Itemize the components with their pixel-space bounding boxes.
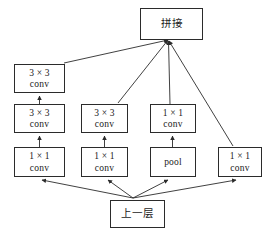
node-concat-label: 拼接	[161, 18, 183, 29]
node-branch2-conv3x3[interactable]: 3 × 3 conv	[81, 104, 128, 133]
node-branch3-conv1x1[interactable]: 1 × 1 conv	[150, 104, 196, 133]
node-branch2-conv1x1[interactable]: 1 × 1 conv	[81, 147, 128, 177]
diagram-canvas: 拼接 3 × 3 conv 3 × 3 conv 1 × 1 conv 3 × …	[0, 0, 272, 233]
edge-b3-top-to-concat	[169, 41, 171, 104]
node-branch1-conv3x3-top-kernel: 3 × 3	[29, 68, 50, 78]
node-branch2-conv3x3-type: conv	[95, 119, 114, 129]
node-branch4-conv1x1[interactable]: 1 × 1 conv	[218, 147, 262, 177]
node-branch1-conv3x3-mid-kernel: 3 × 3	[29, 108, 50, 118]
node-branch1-conv3x3-top-type: conv	[30, 79, 49, 89]
node-branch3-pool[interactable]: pool	[150, 147, 196, 177]
node-branch1-conv1x1-kernel: 1 × 1	[29, 151, 50, 161]
node-branch1-conv3x3-mid-type: conv	[30, 119, 49, 129]
node-branch2-conv1x1-type: conv	[95, 163, 114, 173]
node-branch3-conv1x1-kernel: 1 × 1	[163, 108, 184, 118]
edge-input-to-b4	[133, 180, 236, 198]
edge-input-to-b1-bottom	[42, 180, 133, 198]
node-branch1-conv1x1-type: conv	[30, 163, 49, 173]
node-branch2-conv3x3-kernel: 3 × 3	[94, 108, 115, 118]
node-branch2-conv1x1-kernel: 1 × 1	[94, 151, 115, 161]
node-branch4-conv1x1-kernel: 1 × 1	[230, 151, 251, 161]
node-branch3-pool-label: pool	[164, 157, 182, 167]
node-branch1-conv1x1[interactable]: 1 × 1 conv	[14, 147, 65, 177]
node-branch3-conv1x1-type: conv	[163, 119, 182, 129]
node-branch1-conv3x3-mid[interactable]: 3 × 3 conv	[14, 104, 65, 133]
node-branch1-conv3x3-top[interactable]: 3 × 3 conv	[14, 64, 65, 93]
node-branch4-conv1x1-type: conv	[230, 163, 249, 173]
node-concat[interactable]: 拼接	[140, 8, 203, 40]
node-previous-layer[interactable]: 上一层	[110, 200, 165, 228]
node-previous-layer-label: 上一层	[121, 208, 154, 219]
